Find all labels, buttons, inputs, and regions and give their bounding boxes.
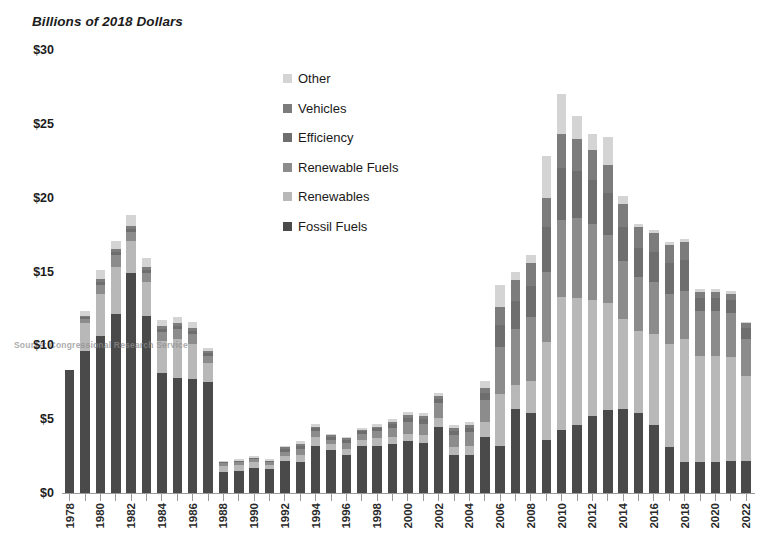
x-axis-tick-label: 1980 <box>94 503 106 529</box>
bar-column[interactable] <box>185 50 200 493</box>
bar-segment <box>80 351 90 493</box>
bar-column[interactable] <box>616 50 631 493</box>
bar-segment <box>695 311 705 355</box>
bar-column[interactable] <box>646 50 661 493</box>
bar-segment <box>495 325 505 347</box>
x-axis-tick <box>200 494 215 501</box>
x-axis-tick <box>308 494 323 501</box>
bar-segment <box>511 301 521 329</box>
x-axis-tick <box>493 494 508 501</box>
bar-segment <box>388 428 398 437</box>
x-axis-tick-label: 2014 <box>617 503 629 529</box>
bar-segment <box>665 294 675 344</box>
bar-stack <box>311 424 321 493</box>
bar-segment <box>741 339 751 376</box>
bar-column[interactable] <box>124 50 139 493</box>
bar-column[interactable] <box>677 50 692 493</box>
x-axis-tick <box>462 494 477 501</box>
bar-column[interactable] <box>247 50 262 493</box>
x-axis-tick <box>416 494 431 501</box>
bar-segment <box>665 263 675 294</box>
x-axis-label-slot <box>631 503 646 549</box>
legend-swatch-icon <box>283 104 292 113</box>
bar-segment <box>157 373 167 493</box>
bar-column[interactable] <box>477 50 492 493</box>
x-axis-tick-label: 2000 <box>402 503 414 529</box>
bar-column[interactable] <box>585 50 600 493</box>
bar-column[interactable] <box>523 50 538 493</box>
bar-segment <box>495 347 505 394</box>
bar-segment <box>511 272 521 281</box>
x-axis-label-slot: 1982 <box>124 503 139 549</box>
legend-item[interactable]: Efficiency <box>283 123 473 153</box>
bar-stack <box>649 230 659 493</box>
x-axis-label-slot: 2020 <box>708 503 723 549</box>
legend-swatch-icon <box>283 222 292 231</box>
x-axis-label-slot: 1994 <box>308 503 323 549</box>
bar-column[interactable] <box>216 50 231 493</box>
x-axis-label-slot <box>569 503 584 549</box>
bar-stack <box>419 413 429 493</box>
bar-column[interactable] <box>154 50 169 493</box>
bar-segment <box>572 425 582 493</box>
bar-column[interactable] <box>262 50 277 493</box>
bar-column[interactable] <box>662 50 677 493</box>
bar-segment <box>695 462 705 493</box>
bar-column[interactable] <box>108 50 123 493</box>
bar-column[interactable] <box>539 50 554 493</box>
bar-segment <box>680 462 690 493</box>
bar-column[interactable] <box>508 50 523 493</box>
bar-segment <box>726 300 736 313</box>
bar-segment <box>695 356 705 462</box>
bar-column[interactable] <box>569 50 584 493</box>
bar-segment <box>480 381 490 388</box>
bar-column[interactable] <box>93 50 108 493</box>
bar-segment <box>542 440 552 493</box>
legend-item[interactable]: Renewables <box>283 182 473 212</box>
bar-column[interactable] <box>62 50 77 493</box>
bar-column[interactable] <box>139 50 154 493</box>
bar-column[interactable] <box>493 50 508 493</box>
bar-column[interactable] <box>739 50 754 493</box>
bar-segment <box>557 430 567 493</box>
bar-column[interactable] <box>231 50 246 493</box>
bar-column[interactable] <box>631 50 646 493</box>
x-axis-label-slot: 1992 <box>277 503 292 549</box>
bar-segment <box>434 403 444 418</box>
legend-item[interactable]: Renewable Fuels <box>283 153 473 183</box>
bar-segment <box>326 450 336 493</box>
x-axis-label-slot <box>231 503 246 549</box>
bar-column[interactable] <box>170 50 185 493</box>
y-axis-tick-label: $25 <box>8 117 54 131</box>
bar-column[interactable] <box>200 50 215 493</box>
bar-segment <box>603 410 613 493</box>
legend-item[interactable]: Vehicles <box>283 94 473 124</box>
x-axis-tick <box>354 494 369 501</box>
x-axis-label-slot <box>293 503 308 549</box>
x-axis-tick <box>739 494 754 501</box>
x-axis-ticks <box>62 494 754 501</box>
legend-item[interactable]: Fossil Fuels <box>283 212 473 242</box>
x-axis-tick <box>108 494 123 501</box>
x-axis-tick <box>62 494 77 501</box>
bar-stack <box>480 381 490 493</box>
bar-segment <box>495 285 505 307</box>
bar-segment <box>465 432 475 445</box>
bar-segment <box>557 94 567 134</box>
legend-item[interactable]: Other <box>283 64 473 94</box>
x-axis-label-slot <box>323 503 338 549</box>
bar-column[interactable] <box>723 50 738 493</box>
bar-segment <box>419 435 429 442</box>
x-axis-tick <box>139 494 154 501</box>
bar-column[interactable] <box>708 50 723 493</box>
bar-stack <box>357 428 367 493</box>
bar-segment <box>649 252 659 282</box>
legend-label: Fossil Fuels <box>298 219 367 234</box>
bar-segment <box>296 455 306 462</box>
bar-segment <box>203 382 213 493</box>
bar-column[interactable] <box>554 50 569 493</box>
bar-column[interactable] <box>77 50 92 493</box>
bar-segment <box>618 227 628 261</box>
bar-column[interactable] <box>600 50 615 493</box>
bar-column[interactable] <box>692 50 707 493</box>
